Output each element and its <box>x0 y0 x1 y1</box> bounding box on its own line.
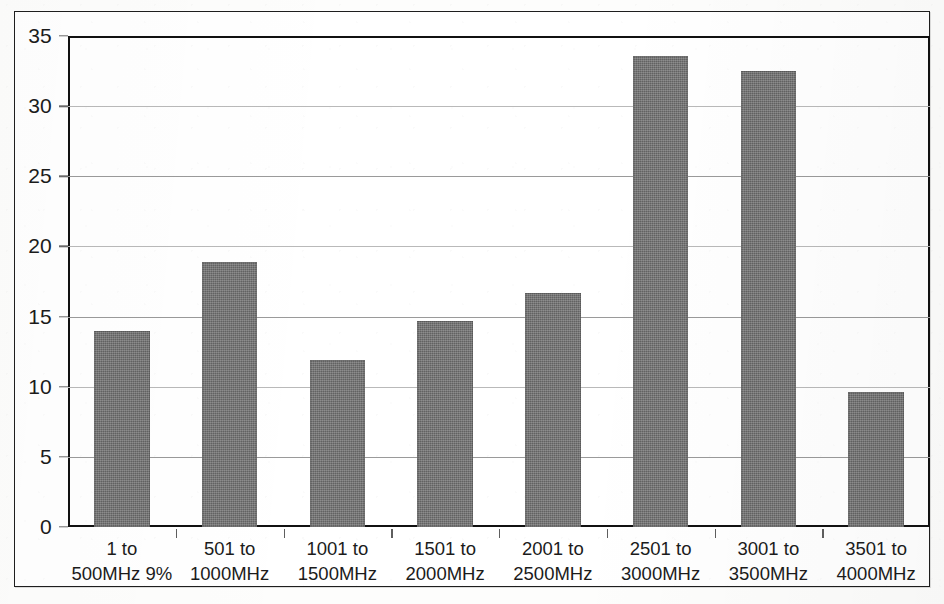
y-tick-mark-25 <box>59 176 68 177</box>
bar-5[interactable] <box>525 293 580 527</box>
bar-6[interactable] <box>633 56 688 527</box>
y-tick-label-20: 20 <box>28 234 52 258</box>
y-tick-label-10: 10 <box>28 375 52 399</box>
y-tick-label-0: 0 <box>40 515 52 539</box>
y-tick-label-15: 15 <box>28 305 52 329</box>
y-tick-label-5: 5 <box>40 445 52 469</box>
y-tick-mark-20 <box>59 246 68 247</box>
x-axis-labels: 1 to500MHz 9%501 to1000MHz1001 to1500MHz… <box>68 536 930 596</box>
y-tick-mark-0 <box>59 526 68 527</box>
x-axis-label-8: 3501 to4000MHz <box>813 536 939 586</box>
y-tick-mark-35 <box>59 35 68 36</box>
x-axis-label-8-line-2: 4000MHz <box>813 561 939 586</box>
y-tick-label-30: 30 <box>28 94 52 118</box>
y-tick-mark-15 <box>59 316 68 317</box>
scanned-chart-page: 05101520253035 1 to500MHz 9%501 to1000MH… <box>0 0 944 604</box>
bar-1[interactable] <box>94 331 149 527</box>
bar-2[interactable] <box>202 262 257 527</box>
bar-4[interactable] <box>417 321 472 527</box>
x-axis-label-8-line-1: 3501 to <box>813 536 939 561</box>
bar-7[interactable] <box>741 71 796 527</box>
y-axis: 05101520253035 <box>0 0 68 604</box>
y-tick-mark-30 <box>59 105 68 106</box>
bar-3[interactable] <box>310 360 365 527</box>
y-tick-mark-5 <box>59 456 68 457</box>
y-tick-label-35: 35 <box>28 24 52 48</box>
y-tick-mark-10 <box>59 386 68 387</box>
bar-8[interactable] <box>848 392 903 527</box>
y-tick-label-25: 25 <box>28 164 52 188</box>
plot-area-border <box>68 36 930 527</box>
